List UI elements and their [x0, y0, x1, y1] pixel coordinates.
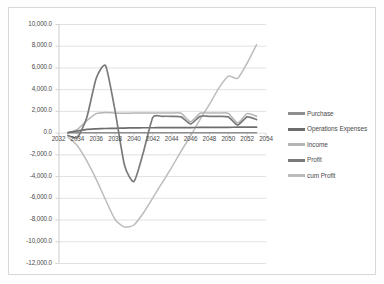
- legend-label: Profit: [307, 157, 322, 163]
- legend-swatch-icon: [288, 143, 305, 146]
- y-tick-label: 10,000.0: [0, 21, 52, 27]
- chart-legend: PurchaseOperations ExpensesIncomeProfitc…: [288, 106, 382, 184]
- legend-item[interactable]: cum Profit: [288, 168, 382, 184]
- y-tick-label: -8,000.0: [0, 216, 52, 222]
- y-tick-label: 8,000.0: [0, 42, 52, 48]
- y-tick-label: -6,000.0: [0, 194, 52, 200]
- legend-label: Operations Expenses: [307, 126, 367, 132]
- legend-swatch-icon: [288, 128, 305, 131]
- legend-item[interactable]: Income: [288, 137, 382, 153]
- y-tick-label: 2,000.0: [0, 107, 52, 113]
- y-tick-label: -2,000.0: [0, 151, 52, 157]
- y-tick-label: 0.0: [0, 129, 52, 135]
- legend-label: cum Profit: [307, 173, 335, 179]
- legend-swatch-icon: [288, 174, 305, 177]
- y-tick-label: 4,000.0: [0, 86, 52, 92]
- legend-swatch-icon: [288, 112, 305, 115]
- x-tick-label: 2054: [253, 136, 279, 142]
- chart-container: 10,000.08,000.06,000.04,000.02,000.00.0-…: [0, 0, 384, 284]
- legend-swatch-icon: [288, 159, 305, 162]
- legend-label: Purchase: [307, 111, 334, 117]
- y-tick-label: -4,000.0: [0, 173, 52, 179]
- legend-label: Income: [307, 142, 328, 148]
- legend-item[interactable]: Purchase: [288, 106, 382, 122]
- y-tick-label: -10,000.0: [0, 238, 52, 244]
- legend-item[interactable]: Operations Expenses: [288, 122, 382, 138]
- y-tick-label: 6,000.0: [0, 64, 52, 70]
- y-tick-label: -12,000.0: [0, 260, 52, 266]
- legend-item[interactable]: Profit: [288, 153, 382, 169]
